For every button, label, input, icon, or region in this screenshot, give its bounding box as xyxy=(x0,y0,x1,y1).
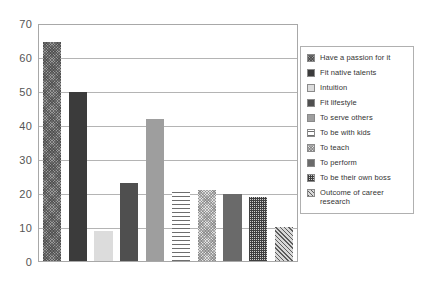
legend-item[interactable]: Intuition xyxy=(307,83,408,92)
y-axis-tick-label: 60 xyxy=(19,52,32,64)
y-axis-tick-label: 0 xyxy=(26,256,32,268)
y-axis-tick-label: 20 xyxy=(19,188,32,200)
legend-item-label: Fit native talents xyxy=(320,68,376,77)
y-axis-tick-label: 50 xyxy=(19,86,32,98)
legend-item-label: Intuition xyxy=(320,83,347,92)
legend-swatch-icon xyxy=(307,54,315,62)
legend-item[interactable]: Have a passion for it xyxy=(307,53,408,62)
legend-swatch-icon xyxy=(307,174,315,182)
legend-swatch-icon xyxy=(307,129,315,137)
y-axis: 010203040506070 xyxy=(0,0,38,289)
legend-item[interactable]: Outcome of career research xyxy=(307,188,408,206)
bar xyxy=(172,190,190,261)
legend-item[interactable]: To perform xyxy=(307,158,408,167)
legend-item[interactable]: To teach xyxy=(307,143,408,152)
legend-swatch-icon xyxy=(307,189,315,197)
bar xyxy=(69,92,87,261)
bars-group xyxy=(39,25,297,261)
legend-item[interactable]: To be with kids xyxy=(307,128,408,137)
legend-item[interactable]: To be their own boss xyxy=(307,173,408,182)
bar xyxy=(275,227,293,261)
legend-item-label: To be their own boss xyxy=(320,173,391,182)
y-axis-tick-label: 40 xyxy=(19,120,32,132)
legend-item-label: To serve others xyxy=(320,113,373,122)
legend-item-label: To teach xyxy=(320,143,349,152)
legend-swatch-icon xyxy=(307,159,315,167)
legend-swatch-icon xyxy=(307,144,315,152)
legend-item-label: To be with kids xyxy=(320,128,371,137)
bar xyxy=(94,231,112,261)
legend-swatch-icon xyxy=(307,99,315,107)
legend-item[interactable]: To serve others xyxy=(307,113,408,122)
y-axis-tick-label: 30 xyxy=(19,154,32,166)
legend-item-label: Fit lifestyle xyxy=(320,98,357,107)
bar xyxy=(146,119,164,261)
bar xyxy=(198,190,216,261)
legend-item[interactable]: Fit lifestyle xyxy=(307,98,408,107)
bar-chart: 010203040506070 Have a passion for itFit… xyxy=(0,0,422,289)
legend-swatch-icon xyxy=(307,114,315,122)
bar xyxy=(43,42,61,261)
legend-swatch-icon xyxy=(307,84,315,92)
legend-swatch-icon xyxy=(307,69,315,77)
legend-item-label: Have a passion for it xyxy=(320,53,390,62)
y-axis-tick-label: 70 xyxy=(19,18,32,30)
bar xyxy=(223,194,241,261)
legend: Have a passion for itFit native talentsI… xyxy=(300,46,414,214)
bar xyxy=(249,197,267,261)
legend-item-label: To perform xyxy=(320,158,357,167)
legend-item-label: Outcome of career research xyxy=(320,188,408,206)
y-axis-tick-label: 10 xyxy=(19,222,32,234)
legend-item[interactable]: Fit native talents xyxy=(307,68,408,77)
bar xyxy=(120,183,138,261)
